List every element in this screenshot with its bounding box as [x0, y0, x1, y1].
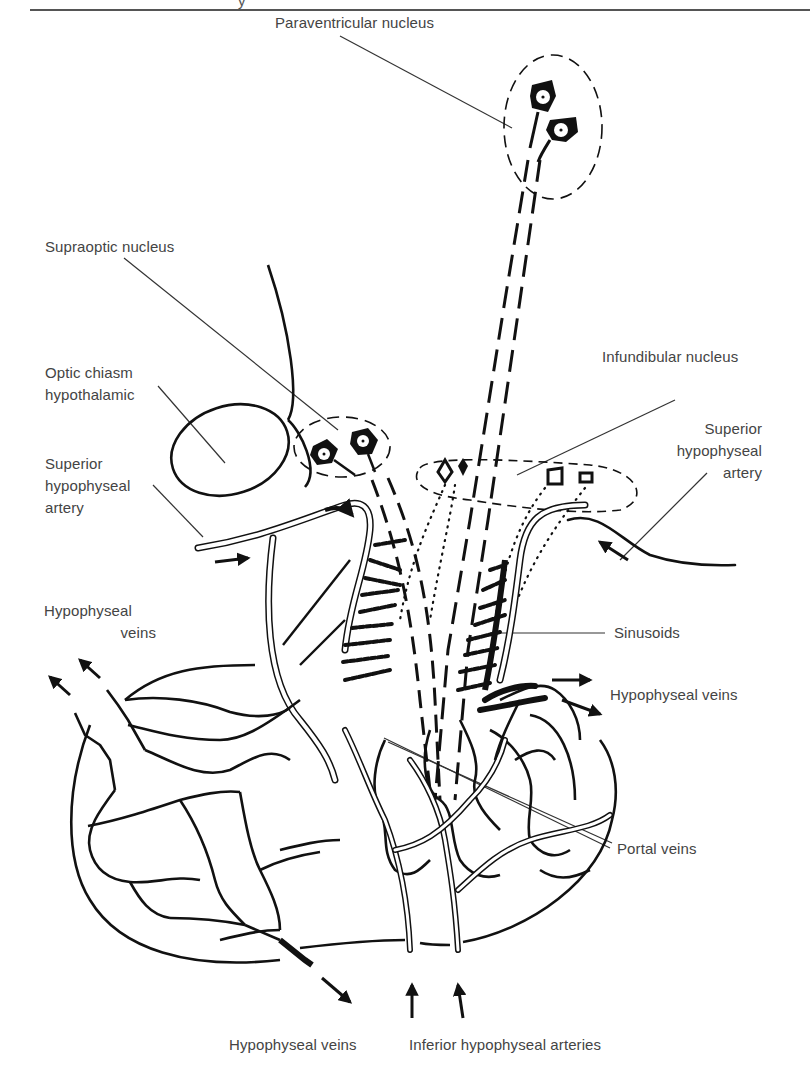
superior-hypophyseal-artery-left	[198, 503, 370, 780]
superior-hypophyseal-artery-right	[500, 505, 735, 680]
optic-chiasm	[159, 265, 310, 510]
hypothalamo-hypophyseal-diagram	[0, 0, 810, 1085]
label-hypophyseal-veins-right: Hypophyseal veins	[610, 684, 738, 706]
neuron-icon	[548, 468, 562, 484]
label-superior-hypophyseal-artery-left: Superior hypophyseal artery	[45, 453, 130, 519]
label-supraoptic-nucleus: Supraoptic nucleus	[45, 236, 174, 258]
supraoptic-nucleus	[294, 417, 390, 477]
label-hypophyseal-veins-bottom: Hypophyseal veins	[229, 1034, 357, 1056]
neuron-icon	[580, 473, 592, 482]
neuron-icon	[438, 460, 452, 482]
label-hypophyseal-veins-left: Hypophyseal veins	[44, 600, 156, 644]
paraventricular-nucleus	[504, 55, 602, 199]
infundibular-nucleus	[417, 458, 637, 512]
label-optic-chiasm: Optic chiasm hypothalamic	[45, 362, 135, 406]
leader-lines	[124, 36, 707, 848]
label-paraventricular-nucleus: Paraventricular nucleus	[275, 12, 434, 34]
venous-network-left	[75, 665, 340, 940]
neuron-icon	[458, 458, 468, 476]
label-sinusoids: Sinusoids	[614, 622, 680, 644]
label-portal-veins: Portal veins	[617, 838, 697, 860]
label-superior-hypophyseal-artery-right: Superior hypophyseal artery	[660, 418, 762, 484]
label-inferior-hypophyseal-arteries: Inferior hypophyseal arteries	[409, 1034, 601, 1056]
label-infundibular-nucleus: Infundibular nucleus	[602, 346, 738, 368]
